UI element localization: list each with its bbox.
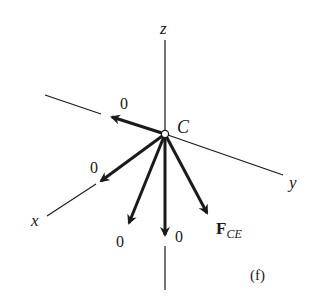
force-label-ce: FCE [216, 219, 242, 241]
force-arrow-back-x [112, 117, 165, 134]
force-label-ce-main: F [216, 219, 226, 238]
node-c-joint [161, 130, 168, 137]
x-axis-line [47, 184, 96, 216]
force-label-down: 0 [175, 228, 183, 245]
force-label-ce-subscript: CE [226, 227, 242, 241]
diagram-svg: z y x C 0 0 0 0 FCE (f) [0, 0, 318, 308]
negative-x-axis-line [45, 95, 101, 114]
panel-label: (f) [250, 267, 265, 284]
free-body-diagram: z y x C 0 0 0 0 FCE (f) [0, 0, 318, 308]
node-c-label: C [177, 117, 190, 137]
force-label-back-x: 0 [120, 95, 128, 112]
y-axis-label: y [287, 173, 297, 192]
force-label-down-left: 0 [116, 233, 124, 250]
force-label-front-x: 0 [90, 159, 98, 176]
x-axis-label: x [30, 211, 39, 230]
z-axis-label: z [159, 19, 167, 38]
